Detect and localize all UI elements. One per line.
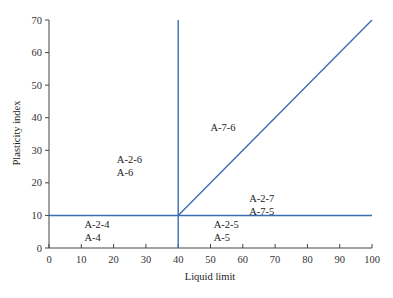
x-tick-label: 30: [141, 254, 152, 265]
classification-chart: 0102030405060708090100010203040506070 A-…: [0, 0, 393, 298]
y-tick-label: 20: [32, 177, 43, 188]
x-tick-label: 70: [270, 254, 281, 265]
region-label: A-2-6A-6: [117, 154, 142, 178]
x-tick-label: 60: [238, 254, 249, 265]
x-tick-label: 10: [76, 254, 87, 265]
boundary-lines: [49, 20, 372, 248]
y-tick-label: 60: [32, 47, 43, 58]
y-tick-label: 30: [32, 145, 43, 156]
diagonal-boundary-line: [178, 20, 372, 215]
y-axis-title: Plasticity index: [11, 100, 22, 166]
x-tick-label: 50: [205, 254, 216, 265]
x-axis-title: Liquid limit: [185, 271, 236, 282]
x-tick-label: 100: [364, 254, 380, 265]
region-label: A-2-7A-7-5: [249, 193, 274, 217]
x-tick-label: 0: [46, 254, 51, 265]
region-label: A-7-6: [211, 122, 236, 133]
x-tick-label: 20: [108, 254, 119, 265]
y-tick-label: 0: [37, 243, 42, 254]
y-tick-label: 10: [32, 210, 43, 221]
x-tick-label: 80: [302, 254, 313, 265]
region-labels: A-2-6A-6A-7-6A-2-7A-7-5A-2-4A-4A-2-5A-5: [85, 122, 275, 244]
y-tick-label: 50: [32, 80, 43, 91]
region-label: A-2-5A-5: [214, 219, 239, 243]
x-tick-label: 40: [173, 254, 184, 265]
x-tick-label: 90: [334, 254, 345, 265]
y-tick-label: 70: [32, 15, 43, 26]
y-tick-label: 40: [32, 112, 43, 123]
region-label: A-2-4A-4: [85, 219, 111, 243]
